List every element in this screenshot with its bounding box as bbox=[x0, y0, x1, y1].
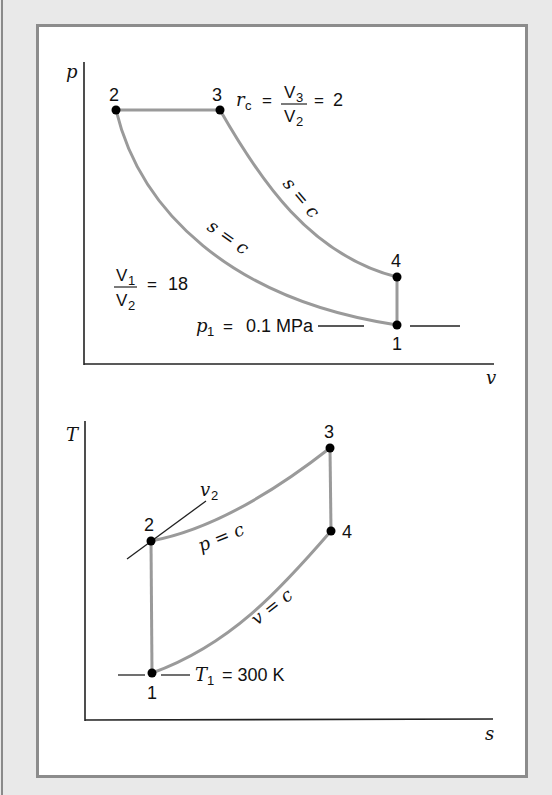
pv-state-point-2 bbox=[112, 106, 121, 115]
pv-y-axis-label: p bbox=[66, 61, 78, 82]
p1-annotation: p 1 = 0.1 MPa bbox=[196, 315, 314, 339]
svg-text:2: 2 bbox=[296, 114, 303, 129]
pv-state-label-3: 3 bbox=[212, 85, 222, 105]
svg-text:= 300 K: = 300 K bbox=[222, 665, 285, 685]
svg-text:=: = bbox=[147, 275, 157, 294]
svg-text:1: 1 bbox=[207, 673, 214, 688]
ts-process-4-1 bbox=[152, 531, 331, 673]
ts-state-point-2 bbox=[147, 537, 156, 546]
ts-state-label-3: 3 bbox=[324, 422, 334, 442]
ts-isobar-label: p = c bbox=[195, 518, 248, 556]
pv-state-label-2: 2 bbox=[109, 85, 119, 105]
pv-state-point-1 bbox=[393, 321, 402, 330]
svg-text:2: 2 bbox=[128, 298, 135, 313]
pv-isentrope-label-3-4: s = c bbox=[279, 173, 325, 222]
svg-text:0.1 MPa: 0.1 MPa bbox=[246, 316, 314, 336]
svg-text:1: 1 bbox=[207, 324, 214, 339]
pv-state-label-4: 4 bbox=[391, 251, 401, 271]
svg-text:3: 3 bbox=[296, 90, 303, 105]
ts-state-label-2: 2 bbox=[144, 515, 154, 535]
ts-state-label-1: 1 bbox=[147, 683, 157, 703]
ts-isochore-label: v = c bbox=[247, 584, 297, 629]
ts-state-point-3 bbox=[326, 444, 335, 453]
svg-text:v: v bbox=[200, 479, 210, 500]
diesel-cycle-figure: p v 2 3 4 1 s = c s = c r c = V 3 V 2 bbox=[0, 0, 552, 795]
cutoff-ratio-formula: r c = V 3 V 2 = 2 bbox=[236, 83, 343, 129]
pv-x-axis-label: v bbox=[486, 367, 496, 388]
ts-diagram: T s 2 3 4 1 v 2 p = c v = c T bbox=[66, 421, 494, 744]
svg-text:2: 2 bbox=[333, 90, 343, 110]
ts-process-3-4 bbox=[330, 448, 331, 531]
svg-text:2: 2 bbox=[211, 488, 218, 503]
svg-text:V: V bbox=[284, 107, 296, 126]
pv-state-point-4 bbox=[393, 273, 402, 282]
ts-x-axis-label: s bbox=[485, 723, 494, 744]
svg-text:18: 18 bbox=[168, 274, 188, 294]
pv-state-point-3 bbox=[216, 106, 225, 115]
svg-text:V: V bbox=[116, 266, 128, 285]
ts-y-axis-label: T bbox=[66, 424, 80, 445]
ts-x-axis bbox=[85, 719, 493, 720]
svg-text:1: 1 bbox=[128, 273, 135, 288]
T1-annotation: T 1 = 300 K bbox=[195, 664, 285, 688]
svg-text:=: = bbox=[223, 317, 233, 336]
ts-state-point-4 bbox=[327, 527, 336, 536]
ts-state-label-4: 4 bbox=[342, 522, 352, 542]
svg-text:=: = bbox=[314, 91, 324, 110]
pv-diagram: p v 2 3 4 1 s = c s = c r c = V 3 V 2 bbox=[66, 61, 496, 388]
ts-state-point-1 bbox=[148, 669, 157, 678]
svg-text:V: V bbox=[284, 83, 296, 102]
ts-v2-label: v 2 bbox=[200, 479, 218, 503]
ts-process-1-2 bbox=[151, 541, 152, 673]
pv-state-label-1: 1 bbox=[392, 334, 402, 354]
svg-text:c: c bbox=[245, 98, 252, 113]
svg-text:=: = bbox=[262, 91, 272, 110]
compression-ratio-formula: V 1 V 2 = 18 bbox=[114, 266, 188, 313]
pv-process-1-2 bbox=[116, 110, 397, 325]
svg-text:V: V bbox=[116, 291, 128, 310]
